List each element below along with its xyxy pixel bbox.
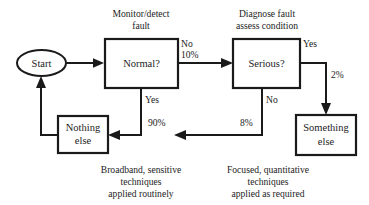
heading-diagnose-line1: Diagnose fault: [239, 8, 296, 19]
node-start-label: Start: [32, 58, 52, 69]
edge-label-normal-no: No: [181, 38, 193, 49]
arrowhead-serious-no-to-nothing-else: [174, 130, 186, 140]
arrowhead-normal-to-serious: [221, 58, 233, 68]
node-nothing-else[interactable]: Nothing else: [58, 116, 108, 153]
flowchart-diagram: Monitor/detect fault Diagnose fault asse…: [0, 0, 369, 205]
arrowhead-serious-yes-to-something-else: [321, 103, 331, 115]
connector-start-to-normal: [66, 58, 104, 68]
caption-left-line1: Broadband, sensitive: [101, 164, 181, 175]
connector-normal-yes-to-nothing-else: [108, 88, 141, 140]
edge-label-normal-no-percent: 10%: [181, 49, 199, 60]
caption-left: Broadband, sensitive techniques applied …: [101, 164, 181, 199]
connector-nothing-else-to-start: [36, 76, 58, 135]
caption-left-line3: applied routinely: [108, 188, 173, 199]
node-normal-label: Normal?: [123, 58, 160, 69]
caption-right-line2: techniques: [247, 176, 288, 187]
caption-left-line2: techniques: [120, 176, 161, 187]
edge-label-normal-yes-percent: 90%: [148, 117, 166, 128]
caption-right-line1: Focused, quantitative: [227, 164, 309, 175]
heading-monitor-line1: Monitor/detect: [112, 8, 169, 19]
edge-label-serious-yes-percent: 2%: [331, 69, 344, 80]
heading-monitor-line2: fault: [132, 20, 150, 31]
connector-serious-no-to-nothing-else: [174, 88, 262, 140]
heading-diagnose-fault-assess-condition: Diagnose fault assess condition: [236, 8, 298, 31]
arrowhead-normal-yes-to-nothing-else: [108, 130, 120, 140]
node-normal[interactable]: Normal?: [105, 39, 178, 88]
caption-right: Focused, quantitative techniques applied…: [227, 164, 309, 199]
node-nothing-else-line1: Nothing: [66, 122, 101, 133]
something-else-box-shape: [296, 115, 356, 155]
node-nothing-else-line2: else: [75, 135, 92, 146]
node-something-else-line2: else: [318, 136, 335, 147]
node-start[interactable]: Start: [17, 50, 66, 76]
node-serious[interactable]: Serious?: [233, 39, 300, 88]
edge-label-normal-yes: Yes: [145, 94, 159, 105]
connector-serious-yes-to-something-else: [300, 63, 331, 115]
heading-diagnose-line2: assess condition: [236, 20, 298, 31]
node-serious-label: Serious?: [248, 58, 285, 69]
arrowhead-nothing-else-to-start: [36, 76, 46, 88]
arrowhead-start-to-normal: [93, 58, 104, 68]
heading-monitor-detect-fault: Monitor/detect fault: [112, 8, 169, 31]
edge-label-serious-no-percent: 8%: [240, 117, 253, 128]
node-something-else-line1: Something: [303, 122, 349, 133]
flowchart-canvas: Monitor/detect fault Diagnose fault asse…: [0, 0, 369, 205]
edge-label-serious-yes: Yes: [303, 38, 317, 49]
edge-label-serious-no: No: [266, 94, 278, 105]
caption-right-line3: applied as required: [232, 188, 305, 199]
node-something-else[interactable]: Something else: [296, 115, 356, 155]
